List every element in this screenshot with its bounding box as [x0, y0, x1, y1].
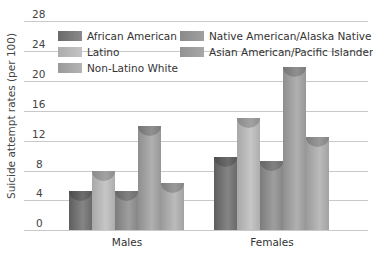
- bar-females-asian-american: [283, 67, 306, 230]
- bar-males-asian-american: [138, 126, 161, 230]
- legend: African American Latino Non-Latino White…: [55, 27, 345, 77]
- bar-males-latino: [92, 171, 115, 230]
- tick-20: 20: [32, 68, 45, 80]
- gridline-20: [24, 81, 368, 82]
- legend-item-native-american: Native American/Alaska Native: [180, 30, 372, 42]
- legend-label: Non-Latino White: [87, 62, 178, 74]
- bar-females-native-american: [260, 161, 283, 230]
- bar-females-non-latino-white: [306, 137, 329, 230]
- tick-24: 24: [32, 38, 45, 50]
- legend-swatch: [180, 47, 204, 57]
- bar-males-non-latino-white: [161, 183, 184, 230]
- x-label-males: Males: [87, 236, 167, 248]
- legend-item-asian-american: Asian American/Pacific Islander: [180, 46, 373, 58]
- tick-16: 16: [32, 98, 45, 110]
- legend-item-non-latino-white: Non-Latino White: [58, 62, 178, 74]
- tick-12: 12: [32, 128, 45, 140]
- legend-swatch: [180, 31, 204, 41]
- legend-swatch: [58, 47, 82, 57]
- gridline-28: [24, 21, 368, 22]
- legend-label: Asian American/Pacific Islander: [209, 46, 373, 58]
- bar-females-african-american: [214, 157, 237, 230]
- tick-4: 4: [36, 187, 43, 199]
- bar-males-african-american: [69, 191, 92, 230]
- legend-label: Latino: [87, 46, 119, 58]
- x-label-females: Females: [232, 236, 312, 248]
- legend-item-african-american: African American: [58, 30, 177, 42]
- bar-females-latino: [237, 118, 260, 230]
- gridline-0: [24, 230, 368, 231]
- tick-8: 8: [36, 158, 43, 170]
- bar-males-native-american: [115, 191, 138, 230]
- tick-28: 28: [32, 8, 45, 20]
- gridline-16: [24, 111, 368, 112]
- legend-label: African American: [87, 30, 177, 42]
- legend-swatch: [58, 63, 82, 73]
- legend-label: Native American/Alaska Native: [209, 30, 372, 42]
- legend-item-latino: Latino: [58, 46, 119, 58]
- legend-swatch: [58, 31, 82, 41]
- y-axis-label: Suicide attempt rates (per 100): [5, 49, 17, 199]
- tick-0: 0: [36, 217, 43, 229]
